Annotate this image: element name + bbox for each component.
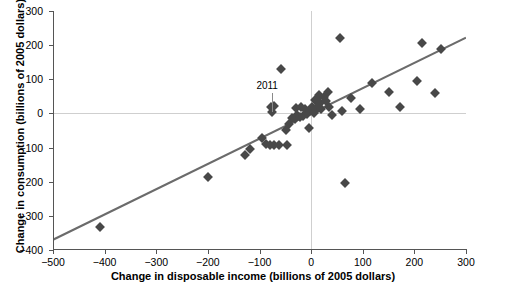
x-tick	[156, 249, 157, 254]
x-tick	[363, 249, 364, 254]
x-tick	[414, 249, 415, 254]
x-tick-label: 0	[289, 257, 333, 268]
x-tick-label: −300	[134, 257, 178, 268]
y-tick	[49, 79, 54, 80]
x-tick-label: 200	[392, 257, 436, 268]
x-tick	[466, 249, 467, 254]
x-tick	[208, 249, 209, 254]
y-tick	[49, 113, 54, 114]
x-tick	[105, 249, 106, 254]
y-tick	[49, 182, 54, 183]
x-tick-label: −200	[186, 257, 230, 268]
x-tick-labels: −500−400−300−200−1000100200300	[53, 11, 466, 250]
x-tick	[260, 249, 261, 254]
x-tick-label: −500	[31, 257, 75, 268]
x-tick-label: −100	[238, 257, 282, 268]
x-axis-title: Change in disposable income (billions of…	[0, 270, 506, 282]
x-tick	[311, 249, 312, 254]
y-tick	[49, 216, 54, 217]
plot-area: 2011 −400−300−200−1000100200300 −500−400…	[53, 11, 466, 250]
x-tick	[53, 249, 54, 254]
y-tick	[49, 148, 54, 149]
x-tick-label: 100	[341, 257, 385, 268]
y-tick	[49, 45, 54, 46]
scatter-chart: 2011 −400−300−200−1000100200300 −500−400…	[0, 0, 506, 288]
y-tick	[49, 11, 54, 12]
y-axis-title: Change in consumption (billions of 2005 …	[14, 0, 26, 256]
x-tick-label: −400	[83, 257, 127, 268]
x-tick-label: 300	[444, 257, 488, 268]
